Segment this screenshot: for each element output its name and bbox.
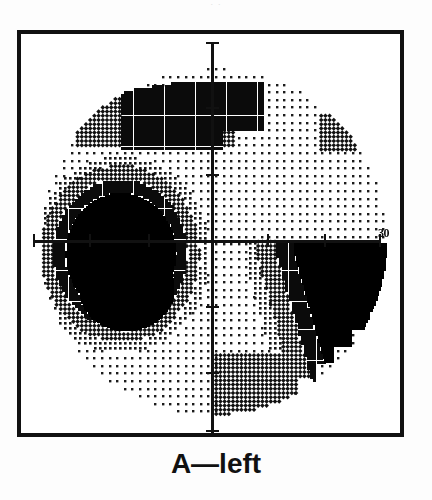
y-tick--20	[206, 372, 219, 374]
x-tick-20	[324, 234, 326, 247]
figure-root: · · 30 A—left	[0, 0, 432, 500]
y-tick-30	[206, 42, 219, 44]
visual-field-frame	[17, 30, 404, 437]
vertical-axis	[211, 42, 214, 433]
x-tick--10	[148, 234, 150, 247]
y-tick-20	[206, 107, 219, 109]
top-text-remnant: · ·	[0, 0, 432, 9]
visual-field-plot-area	[21, 34, 400, 433]
x-tick--20	[89, 234, 91, 247]
figure-caption: A—left	[0, 448, 432, 480]
x-tick-10	[267, 234, 269, 247]
y-tick--10	[206, 306, 219, 308]
axis-label-30: 30	[378, 226, 389, 241]
y-tick--30	[206, 430, 219, 432]
horizontal-axis	[33, 240, 381, 243]
x-tick--30	[33, 234, 35, 247]
y-tick-10	[206, 174, 219, 176]
